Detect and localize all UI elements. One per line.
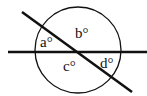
circle (35, 7, 121, 93)
angle-a-label: a° (40, 34, 53, 50)
angle-d-label: d° (100, 55, 114, 71)
angle-c-label: c° (63, 58, 76, 74)
geometry-diagram: a° b° c° d° (0, 0, 147, 96)
angle-b-label: b° (75, 25, 89, 41)
